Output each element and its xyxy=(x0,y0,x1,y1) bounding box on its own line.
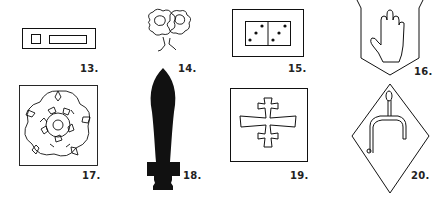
figure-16-hand-shield-icon xyxy=(357,0,423,75)
figure-15-domino-icon xyxy=(233,10,304,57)
figure-15-label: 15. xyxy=(288,63,307,74)
figure-17-label: 17. xyxy=(82,170,101,181)
figure-16-label: 16. xyxy=(414,66,433,77)
figure-19-label: 19. xyxy=(290,170,309,181)
figure-20-label: 20. xyxy=(411,170,430,181)
figure-18-sword-icon xyxy=(147,68,180,190)
figures-canvas xyxy=(0,0,436,203)
figure-14-label: 14. xyxy=(178,63,197,74)
figure-14-roses-icon xyxy=(149,9,191,51)
figure-18-label: 18. xyxy=(183,170,202,181)
figure-13-label: 13. xyxy=(80,63,99,74)
figure-19-cross-icon xyxy=(231,89,308,162)
figure-13-rectangle-icon xyxy=(23,29,96,49)
figure-17-tudor-rose-icon xyxy=(20,86,98,166)
